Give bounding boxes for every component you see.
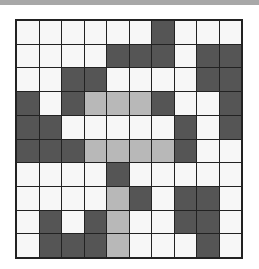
- grid-cell-r3-c7[interactable]: [175, 92, 197, 115]
- grid-cell-r7-c7[interactable]: [175, 187, 197, 210]
- grid-cell-r2-c7[interactable]: [175, 68, 197, 91]
- grid-cell-r8-c5[interactable]: [130, 211, 152, 234]
- grid-cell-r6-c7[interactable]: [175, 163, 197, 186]
- grid-cell-r2-c3[interactable]: [85, 68, 107, 91]
- grid-cell-r6-c2[interactable]: [62, 163, 84, 186]
- grid-cell-r9-c9[interactable]: [220, 234, 242, 257]
- grid-cell-r2-c5[interactable]: [130, 68, 152, 91]
- grid-cell-r5-c6[interactable]: [152, 140, 174, 163]
- grid-cell-r0-c4[interactable]: [107, 21, 129, 44]
- grid-cell-r0-c2[interactable]: [62, 21, 84, 44]
- grid-cell-r7-c2[interactable]: [62, 187, 84, 210]
- grid-cell-r8-c3[interactable]: [85, 211, 107, 234]
- grid-cell-r5-c1[interactable]: [40, 140, 62, 163]
- grid-cell-r7-c1[interactable]: [40, 187, 62, 210]
- grid-cell-r8-c6[interactable]: [152, 211, 174, 234]
- grid-cell-r3-c6[interactable]: [152, 92, 174, 115]
- grid-cell-r3-c0[interactable]: [17, 92, 39, 115]
- grid-cell-r5-c9[interactable]: [220, 140, 242, 163]
- grid-cell-r9-c1[interactable]: [40, 234, 62, 257]
- grid-cell-r8-c7[interactable]: [175, 211, 197, 234]
- grid-cell-r9-c8[interactable]: [197, 234, 219, 257]
- grid-cell-r4-c4[interactable]: [107, 116, 129, 139]
- grid-cell-r2-c0[interactable]: [17, 68, 39, 91]
- grid-cell-r8-c1[interactable]: [40, 211, 62, 234]
- grid-cell-r5-c7[interactable]: [175, 140, 197, 163]
- grid-cell-r1-c9[interactable]: [220, 45, 242, 68]
- grid-cell-r9-c5[interactable]: [130, 234, 152, 257]
- grid-cell-r4-c3[interactable]: [85, 116, 107, 139]
- grid-cell-r9-c2[interactable]: [62, 234, 84, 257]
- grid-cell-r8-c2[interactable]: [62, 211, 84, 234]
- grid-cell-r5-c0[interactable]: [17, 140, 39, 163]
- grid-cell-r2-c1[interactable]: [40, 68, 62, 91]
- grid-cell-r7-c4[interactable]: [107, 187, 129, 210]
- grid-cell-r1-c6[interactable]: [152, 45, 174, 68]
- grid-cell-r2-c6[interactable]: [152, 68, 174, 91]
- grid-cell-r0-c9[interactable]: [220, 21, 242, 44]
- grid-cell-r6-c3[interactable]: [85, 163, 107, 186]
- grid-cell-r4-c0[interactable]: [17, 116, 39, 139]
- grid-cell-r4-c6[interactable]: [152, 116, 174, 139]
- grid-cell-r6-c0[interactable]: [17, 163, 39, 186]
- grid-cell-r5-c4[interactable]: [107, 140, 129, 163]
- grid-cell-r7-c9[interactable]: [220, 187, 242, 210]
- grid-cell-r0-c3[interactable]: [85, 21, 107, 44]
- grid-cell-r0-c7[interactable]: [175, 21, 197, 44]
- grid-cell-r5-c8[interactable]: [197, 140, 219, 163]
- grid-cell-r3-c9[interactable]: [220, 92, 242, 115]
- grid-cell-r3-c1[interactable]: [40, 92, 62, 115]
- grid-cell-r3-c3[interactable]: [85, 92, 107, 115]
- grid-cell-r5-c2[interactable]: [62, 140, 84, 163]
- grid-cell-r4-c2[interactable]: [62, 116, 84, 139]
- grid-cell-r8-c8[interactable]: [197, 211, 219, 234]
- grid-cell-r0-c1[interactable]: [40, 21, 62, 44]
- grid-cell-r1-c7[interactable]: [175, 45, 197, 68]
- grid-cell-r7-c5[interactable]: [130, 187, 152, 210]
- grid-cell-r7-c6[interactable]: [152, 187, 174, 210]
- grid-cell-r8-c4[interactable]: [107, 211, 129, 234]
- grid-cell-r0-c0[interactable]: [17, 21, 39, 44]
- grid-cell-r1-c8[interactable]: [197, 45, 219, 68]
- grid-cell-r2-c2[interactable]: [62, 68, 84, 91]
- grid-cell-r9-c7[interactable]: [175, 234, 197, 257]
- grid-cell-r8-c0[interactable]: [17, 211, 39, 234]
- grid-cell-r5-c5[interactable]: [130, 140, 152, 163]
- grid-cell-r2-c9[interactable]: [220, 68, 242, 91]
- grid-cell-r2-c8[interactable]: [197, 68, 219, 91]
- grid-cell-r9-c0[interactable]: [17, 234, 39, 257]
- grid-cell-r6-c4[interactable]: [107, 163, 129, 186]
- grid-cell-r6-c8[interactable]: [197, 163, 219, 186]
- grid-cell-r9-c3[interactable]: [85, 234, 107, 257]
- grid-cell-r9-c6[interactable]: [152, 234, 174, 257]
- grid-cell-r9-c4[interactable]: [107, 234, 129, 257]
- grid-cell-r1-c5[interactable]: [130, 45, 152, 68]
- grid-cell-r4-c8[interactable]: [197, 116, 219, 139]
- grid-cell-r1-c2[interactable]: [62, 45, 84, 68]
- grid-cell-r4-c5[interactable]: [130, 116, 152, 139]
- grid-cell-r6-c1[interactable]: [40, 163, 62, 186]
- grid-cell-r8-c9[interactable]: [220, 211, 242, 234]
- grid-cell-r0-c6[interactable]: [152, 21, 174, 44]
- grid-cell-r1-c4[interactable]: [107, 45, 129, 68]
- grid-cell-r4-c1[interactable]: [40, 116, 62, 139]
- grid-cell-r1-c3[interactable]: [85, 45, 107, 68]
- grid-cell-r3-c8[interactable]: [197, 92, 219, 115]
- grid-cell-r3-c5[interactable]: [130, 92, 152, 115]
- grid-cell-r4-c7[interactable]: [175, 116, 197, 139]
- grid-cell-r3-c4[interactable]: [107, 92, 129, 115]
- grid-cell-r3-c2[interactable]: [62, 92, 84, 115]
- grid-cell-r6-c5[interactable]: [130, 163, 152, 186]
- grid-cell-r5-c3[interactable]: [85, 140, 107, 163]
- grid-cell-r6-c6[interactable]: [152, 163, 174, 186]
- puzzle-grid[interactable]: [15, 19, 243, 259]
- grid-cell-r1-c0[interactable]: [17, 45, 39, 68]
- grid-cell-r7-c8[interactable]: [197, 187, 219, 210]
- grid-cell-r1-c1[interactable]: [40, 45, 62, 68]
- grid-cell-r7-c0[interactable]: [17, 187, 39, 210]
- grid-cell-r2-c4[interactable]: [107, 68, 129, 91]
- grid-cell-r7-c3[interactable]: [85, 187, 107, 210]
- grid-cell-r6-c9[interactable]: [220, 163, 242, 186]
- grid-cell-r0-c5[interactable]: [130, 21, 152, 44]
- grid-cell-r4-c9[interactable]: [220, 116, 242, 139]
